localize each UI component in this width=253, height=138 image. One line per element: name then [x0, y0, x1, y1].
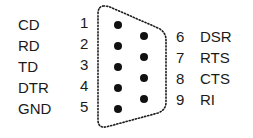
pin-number-3: 3 — [80, 56, 88, 73]
pin-number-1: 1 — [80, 14, 88, 31]
pin-number-4: 4 — [80, 77, 88, 94]
pin-dots — [114, 21, 148, 113]
pin-number-8: 8 — [176, 70, 184, 87]
pin-number-9: 9 — [176, 91, 184, 108]
pin-number-5: 5 — [80, 98, 88, 115]
pin-label-4: DTR — [18, 79, 49, 96]
pin-label-7: RTS — [200, 49, 230, 66]
pin-number-6: 6 — [176, 28, 184, 45]
pin-label-6: DSR — [200, 28, 232, 45]
pin-label-8: CTS — [200, 70, 230, 87]
pin-label-5: GND — [18, 100, 51, 117]
db9-pinout-diagram: CD RD TD DTR GND 1 2 3 4 5 6 7 8 9 DSR R… — [0, 0, 253, 138]
pin-label-1: CD — [18, 16, 40, 33]
pin-label-3: TD — [18, 58, 38, 75]
pin-label-2: RD — [18, 37, 40, 54]
pin-number-2: 2 — [80, 35, 88, 52]
pin-number-7: 7 — [176, 49, 184, 66]
pin-label-9: RI — [200, 91, 215, 108]
